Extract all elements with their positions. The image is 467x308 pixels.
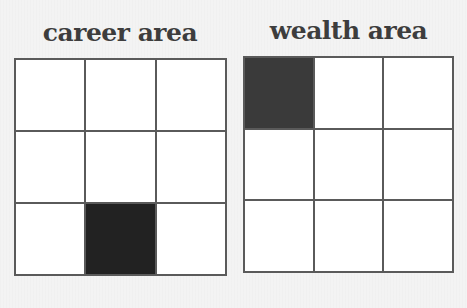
- career-cell-2-2: [157, 204, 225, 274]
- wealth-cell-0-2: [384, 58, 452, 128]
- wealth-area-title: wealth area: [244, 16, 453, 45]
- wealth-cell-2-1: [315, 201, 383, 271]
- wealth-cell-2-0: [245, 201, 313, 271]
- wealth-cell-2-2: [384, 201, 452, 271]
- career-area-grid: [14, 58, 227, 276]
- career-cell-0-0: [16, 60, 84, 130]
- career-cell-1-0: [16, 132, 84, 202]
- career-cell-2-0: [16, 204, 84, 274]
- wealth-area-grid: [243, 56, 454, 273]
- wealth-cell-0-1: [315, 58, 383, 128]
- career-cell-2-1-filled: [86, 204, 154, 274]
- career-cell-1-2: [157, 132, 225, 202]
- career-cell-0-1: [86, 60, 154, 130]
- career-cell-1-1: [86, 132, 154, 202]
- wealth-cell-1-2: [384, 130, 452, 200]
- wealth-cell-1-1: [315, 130, 383, 200]
- wealth-cell-0-0-filled: [245, 58, 313, 128]
- career-area-title: career area: [15, 18, 225, 47]
- wealth-cell-1-0: [245, 130, 313, 200]
- career-cell-0-2: [157, 60, 225, 130]
